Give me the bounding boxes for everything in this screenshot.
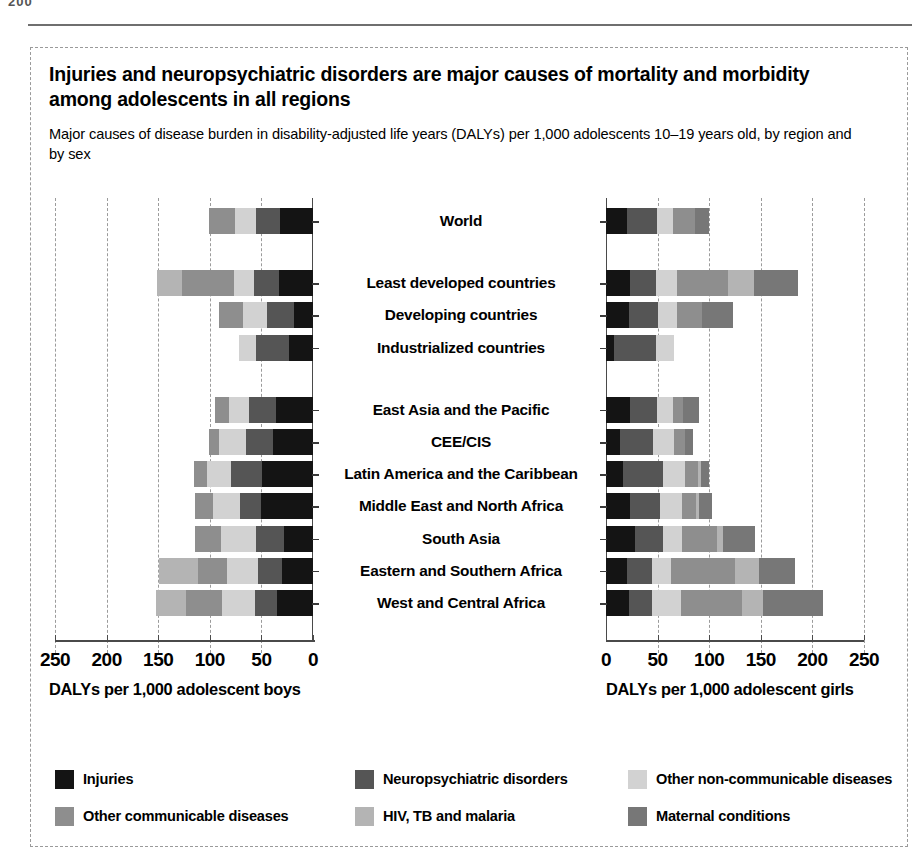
bar-segment [256, 526, 284, 552]
right-axis-tick-labels: 050100150200250 [606, 649, 864, 675]
stacked-bar[interactable] [606, 526, 755, 552]
bar-segment [606, 208, 627, 234]
stacked-bar[interactable] [606, 302, 733, 328]
bar-segment [222, 590, 255, 616]
stacked-bar[interactable] [606, 270, 798, 296]
stacked-bar[interactable] [195, 493, 313, 519]
stacked-bar[interactable] [156, 590, 313, 616]
stacked-bar[interactable] [209, 429, 313, 455]
stacked-bar[interactable] [209, 208, 313, 234]
legend-item-other-communicable-diseases[interactable]: Other communicable diseases [55, 803, 288, 829]
bar-row[interactable] [606, 208, 864, 234]
bar-row[interactable] [606, 558, 864, 584]
legend-swatch [355, 770, 374, 789]
x-axis-line [606, 640, 864, 642]
bar-row[interactable] [55, 493, 313, 519]
left-axis-tick-50: 50 [251, 649, 271, 671]
left-axis-tick-labels: 250200150100500 [55, 649, 313, 675]
bar-row[interactable] [55, 397, 313, 423]
bar-segment [294, 302, 313, 328]
bar-row[interactable] [55, 558, 313, 584]
bar-segment [606, 558, 627, 584]
stacked-bar[interactable] [195, 526, 313, 552]
bar-segment [663, 461, 686, 487]
bar-row[interactable] [606, 302, 864, 328]
legend-item-injuries[interactable]: Injuries [55, 766, 133, 792]
stacked-bar[interactable] [215, 397, 313, 423]
stacked-bar[interactable] [606, 590, 823, 616]
stacked-bar[interactable] [157, 270, 313, 296]
bar-segment [754, 270, 798, 296]
bar-row[interactable] [55, 429, 313, 455]
bar-segment [623, 461, 663, 487]
stacked-bar[interactable] [606, 493, 712, 519]
stacked-bar[interactable] [606, 397, 699, 423]
legend-label: Neuropsychiatric disorders [383, 771, 568, 787]
region-label-developing-countries: Developing countries [315, 302, 607, 328]
bar-segment [234, 270, 255, 296]
region-label-middle-east-and-north-africa: Middle East and North Africa [315, 493, 607, 519]
right-axis-tick-200: 200 [797, 649, 827, 671]
bar-segment [256, 208, 280, 234]
bar-segment [282, 558, 313, 584]
bar-segment [194, 461, 206, 487]
bar-segment [209, 208, 235, 234]
bar-row[interactable] [55, 590, 313, 616]
bar-row[interactable] [606, 526, 864, 552]
axis-tick-150 [158, 635, 159, 640]
bar-row[interactable] [55, 335, 313, 361]
bar-segment [606, 461, 623, 487]
bar-segment [630, 270, 656, 296]
stacked-bar[interactable] [606, 335, 674, 361]
bar-segment [657, 208, 674, 234]
bar-row[interactable] [606, 429, 864, 455]
bar-row[interactable] [606, 335, 864, 361]
bar-row[interactable] [55, 208, 313, 234]
legend-item-neuropsychiatric-disorders[interactable]: Neuropsychiatric disorders [355, 766, 568, 792]
bar-row[interactable] [606, 270, 864, 296]
bar-row[interactable] [606, 397, 864, 423]
legend-swatch [55, 770, 74, 789]
region-label-west-and-central-africa: West and Central Africa [315, 590, 607, 616]
bar-segment [629, 302, 658, 328]
bar-row[interactable] [55, 526, 313, 552]
stacked-bar[interactable] [606, 208, 709, 234]
bar-row[interactable] [606, 590, 864, 616]
stacked-bar[interactable] [194, 461, 313, 487]
bar-row[interactable] [55, 302, 313, 328]
bar-row[interactable] [55, 461, 313, 487]
bar-segment [209, 429, 219, 455]
bar-row[interactable] [55, 270, 313, 296]
bar-segment [673, 397, 683, 423]
bar-segment [182, 270, 234, 296]
stacked-bar[interactable] [219, 302, 313, 328]
page-number: 200 [8, 0, 33, 9]
stacked-bar[interactable] [239, 335, 313, 361]
stacked-bar[interactable] [606, 429, 693, 455]
legend-item-hiv-tb-and-malaria[interactable]: HIV, TB and malaria [355, 803, 515, 829]
bar-segment [660, 493, 683, 519]
left-axis-title: DALYs per 1,000 adolescent boys [49, 680, 301, 699]
legend-item-maternal-conditions[interactable]: Maternal conditions [628, 803, 790, 829]
stacked-bar[interactable] [159, 558, 313, 584]
bar-row[interactable] [606, 461, 864, 487]
gridline-50 [261, 198, 263, 653]
bar-row[interactable] [606, 493, 864, 519]
region-label-east-asia-and-the-pacific: East Asia and the Pacific [315, 397, 607, 423]
bar-segment [635, 526, 663, 552]
legend-item-other-non-communicable-diseases[interactable]: Other non-communicable diseases [628, 766, 892, 792]
bar-segment [243, 302, 267, 328]
region-label-south-asia: South Asia [315, 526, 607, 552]
stacked-bar[interactable] [606, 558, 795, 584]
gridline-250 [864, 198, 866, 653]
bar-segment [620, 429, 653, 455]
bar-segment [284, 526, 313, 552]
right-axis-title: DALYs per 1,000 adolescent girls [606, 680, 854, 699]
stacked-bar[interactable] [606, 461, 709, 487]
bar-segment [606, 270, 630, 296]
boys-panel [55, 198, 315, 653]
bar-segment [246, 429, 273, 455]
x-axis-line [55, 640, 315, 642]
bar-segment [652, 590, 681, 616]
bar-segment [255, 590, 277, 616]
